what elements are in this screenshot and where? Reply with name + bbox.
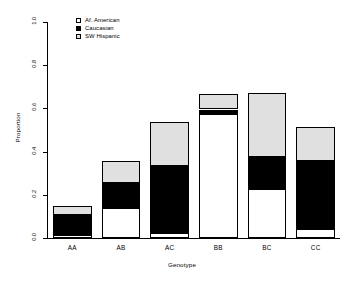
bar-segment-bc-caucasian [248, 157, 287, 189]
legend-item: SW Hispanic [76, 33, 120, 40]
bar-ab [102, 22, 141, 238]
bar-ac [150, 22, 189, 238]
bar-segment-bb-caucasian [199, 110, 238, 114]
bar-segment-ab-sw-hispanic [102, 161, 141, 183]
bar-segment-cc-af-american [296, 229, 335, 238]
bar-segment-cc-sw-hispanic [296, 127, 335, 162]
black-square-icon [76, 26, 81, 31]
bar-segment-cc-caucasian [296, 161, 335, 229]
x-axis-title: Genotype [0, 261, 364, 268]
bar-segment-bb-sw-hispanic [199, 94, 238, 109]
chart-figure: Proportion 0.00.20.40.60.81.0 AAABACBBBC… [0, 0, 364, 283]
bar-segment-bc-sw-hispanic [248, 93, 287, 157]
legend-item: Caucasian [76, 25, 120, 32]
x-tick-label-aa: AA [48, 245, 97, 251]
x-tick-label-ac: AC [145, 245, 194, 251]
y-tick-label: 0.2 [17, 191, 39, 197]
bar-aa [53, 22, 92, 238]
y-axis-title-text: Proportion [14, 112, 21, 142]
y-tick-label: 0.8 [17, 61, 39, 67]
gray-square-icon [76, 34, 81, 39]
bar-segment-ac-sw-hispanic [150, 122, 189, 165]
x-tick-label-cc: CC [291, 245, 340, 251]
chart-legend: Af. AmericanCaucasianSW Hispanic [76, 17, 120, 41]
legend-item-label: SW Hispanic [85, 34, 120, 40]
bar-segment-bc-af-american [248, 189, 287, 238]
bar-cc [296, 22, 335, 238]
x-axis-line [48, 238, 340, 239]
bar-segment-bb-af-american [199, 114, 238, 238]
bar-segment-aa-caucasian [53, 215, 92, 234]
y-axis-title: Proportion [10, 0, 24, 255]
y-tick-label: 0.6 [17, 104, 39, 110]
x-tick-label-ab: AB [97, 245, 146, 251]
plot-area [48, 22, 340, 238]
bar-segment-ac-af-american [150, 233, 189, 238]
bar-segment-ac-caucasian [150, 166, 189, 233]
x-tick-label-bc: BC [243, 245, 292, 251]
bar-segment-ab-af-american [102, 208, 141, 238]
x-tick-label-bb: BB [194, 245, 243, 251]
legend-item-label: Af. American [85, 18, 120, 24]
legend-item: Af. American [76, 17, 120, 24]
bar-bb [199, 22, 238, 238]
x-axis-title-text: Genotype [168, 261, 196, 268]
bar-bc [248, 22, 287, 238]
bar-segment-ab-caucasian [102, 183, 141, 208]
bar-segment-aa-af-american [53, 235, 92, 238]
legend-item-label: Caucasian [85, 26, 114, 32]
y-tick-mark [43, 238, 48, 239]
y-tick-label: 0.4 [17, 148, 39, 154]
y-tick-label: 0.0 [17, 234, 39, 240]
bar-segment-aa-sw-hispanic [53, 206, 92, 216]
white-square-icon [76, 18, 81, 23]
y-tick-label: 1.0 [17, 18, 39, 24]
